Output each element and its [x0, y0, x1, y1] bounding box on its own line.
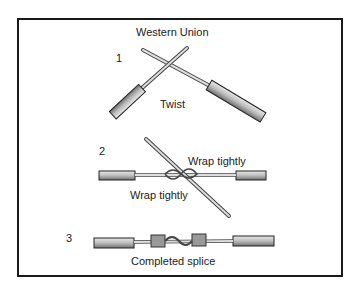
splice-illustration: [0, 0, 357, 296]
step2-number: 2: [99, 145, 105, 157]
step1-number: 1: [116, 52, 122, 64]
step2-caption-upper: Wrap tightly: [188, 155, 246, 167]
step1-wires: [109, 48, 265, 122]
step3-splice: [94, 234, 274, 248]
step2-wires: [99, 139, 266, 216]
step3-caption: Completed splice: [131, 255, 215, 267]
step3-number: 3: [66, 232, 72, 244]
step1-caption: Twist: [160, 98, 185, 110]
step2-caption-lower: Wrap tightly: [130, 189, 188, 201]
diagram-title: Western Union: [136, 26, 209, 38]
